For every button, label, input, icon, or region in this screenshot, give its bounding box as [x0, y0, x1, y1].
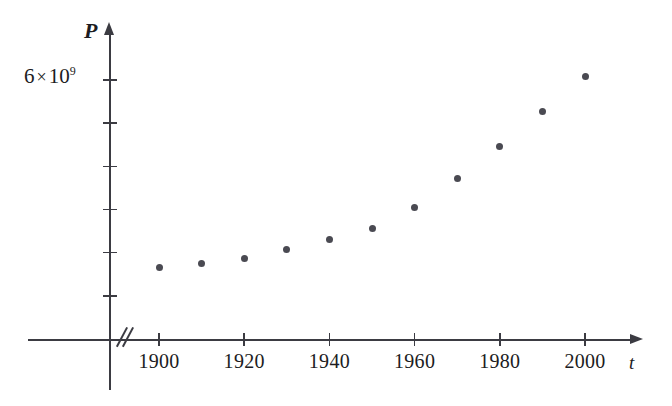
x-axis-label: t [629, 352, 634, 374]
y-axis-tick [103, 209, 117, 211]
x-axis-tick-label: 2000 [545, 350, 625, 373]
y-tick-exponent: 9 [70, 64, 76, 78]
y-tick-times-symbol: × [35, 67, 49, 87]
x-axis-tick-label: 1940 [289, 350, 369, 373]
x-axis-tick-label: 1920 [204, 350, 284, 373]
x-axis-tick [584, 333, 586, 346]
x-axis-tick [243, 333, 245, 346]
x-axis-tick [158, 333, 160, 346]
x-axis-tick [499, 333, 501, 346]
data-point [411, 204, 418, 211]
y-axis-line [109, 33, 111, 390]
x-axis-tick-label: 1960 [375, 350, 455, 373]
data-point [283, 246, 290, 253]
x-axis-tick [414, 333, 416, 346]
chart-figure: P t 6×109 190019201940196019802000 [0, 0, 672, 406]
data-point [369, 225, 376, 232]
data-point [496, 143, 503, 150]
y-tick-coefficient: 6 [24, 64, 35, 88]
y-tick-base: 10 [49, 64, 70, 88]
y-axis-tick [103, 295, 117, 297]
data-point [326, 236, 333, 243]
x-axis-tick-label: 1900 [119, 350, 199, 373]
x-axis-tick-label: 1980 [460, 350, 540, 373]
data-point [582, 73, 589, 80]
y-axis-tick [103, 252, 117, 254]
y-axis-label: P [84, 18, 97, 44]
data-point [454, 175, 461, 182]
axis-break-icon [116, 326, 140, 350]
data-point [156, 264, 163, 271]
data-point [539, 108, 546, 115]
data-point [198, 260, 205, 267]
arrow-up-icon [104, 22, 114, 35]
y-axis-tick [103, 79, 117, 81]
y-axis-tick [103, 166, 117, 168]
arrow-right-icon [630, 334, 643, 344]
data-point [241, 255, 248, 262]
y-axis-tick-label-top: 6×109 [24, 64, 76, 89]
x-axis-tick [329, 333, 331, 346]
y-axis-tick [103, 122, 117, 124]
